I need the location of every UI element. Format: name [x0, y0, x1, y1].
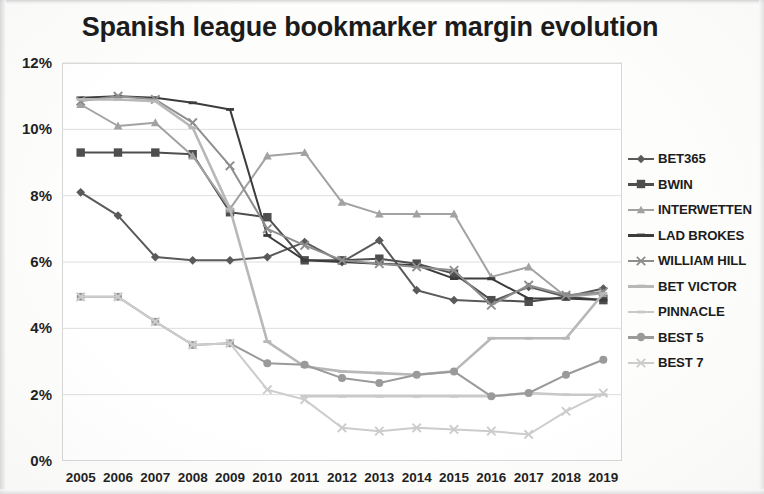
legend-marker-none-icon — [628, 226, 654, 244]
series-interwetten — [76, 100, 607, 300]
series-layer — [76, 92, 607, 439]
legend-label: BET VICTOR — [658, 279, 737, 294]
x-axis-tick-2005: 2005 — [61, 470, 101, 485]
legend-item-best-5[interactable]: BEST 5 — [628, 325, 762, 351]
legend-item-bet-victor[interactable]: BET VICTOR — [628, 274, 762, 300]
legend-marker-none-icon — [628, 277, 654, 295]
legend-marker-circle-icon — [628, 328, 654, 346]
legend-label: BWIN — [658, 177, 693, 192]
legend-item-best-7[interactable]: BEST 7 — [628, 350, 762, 376]
y-axis-tick-2: 2% — [8, 386, 52, 403]
legend-label: INTERWETTEN — [658, 202, 752, 217]
y-axis-tick-4: 4% — [8, 319, 52, 336]
legend-marker-cross-icon — [628, 252, 654, 270]
x-axis-tick-2010: 2010 — [247, 470, 287, 485]
chart-legend: BET365BWININTERWETTENLAD BROKESWILLIAM H… — [628, 146, 762, 376]
x-axis-tick-2014: 2014 — [397, 470, 437, 485]
legend-marker-cross-icon — [628, 354, 654, 372]
series-best-7 — [76, 293, 607, 439]
legend-label: BET365 — [658, 151, 706, 166]
y-axis-tick-12: 12% — [8, 54, 52, 71]
legend-item-bet365[interactable]: BET365 — [628, 146, 762, 172]
legend-item-william-hill[interactable]: WILLIAM HILL — [628, 248, 762, 274]
x-axis-tick-2018: 2018 — [546, 470, 586, 485]
legend-marker-none-icon — [628, 303, 654, 321]
legend-label: BEST 5 — [658, 330, 704, 345]
legend-label: PINNACLE — [658, 304, 725, 319]
legend-item-interwetten[interactable]: INTERWETTEN — [628, 197, 762, 223]
x-axis-tick-2019: 2019 — [583, 470, 623, 485]
x-axis-tick-2007: 2007 — [135, 470, 175, 485]
x-axis-tick-2017: 2017 — [509, 470, 549, 485]
legend-marker-diamond-icon — [628, 150, 654, 168]
y-axis-tick-8: 8% — [8, 187, 52, 204]
legend-item-lad-brokes[interactable]: LAD BROKES — [628, 223, 762, 249]
x-axis-tick-2009: 2009 — [210, 470, 250, 485]
y-axis-tick-0: 0% — [8, 452, 52, 469]
series-bet-victor — [77, 98, 608, 376]
y-axis-tick-10: 10% — [8, 120, 52, 137]
legend-label: BEST 7 — [658, 355, 704, 370]
x-axis-tick-2008: 2008 — [173, 470, 213, 485]
scanned-page: Spanish league bookmarker margin evoluti… — [0, 0, 764, 494]
y-axis-tick-6: 6% — [8, 253, 52, 270]
x-axis-tick-2012: 2012 — [322, 470, 362, 485]
legend-item-bwin[interactable]: BWIN — [628, 172, 762, 198]
x-axis-tick-2016: 2016 — [471, 470, 511, 485]
legend-marker-triangle-icon — [628, 201, 654, 219]
x-axis-tick-2011: 2011 — [285, 470, 325, 485]
legend-label: LAD BROKES — [658, 228, 744, 243]
gridlines — [62, 63, 622, 395]
x-axis-tick-2015: 2015 — [434, 470, 474, 485]
legend-label: WILLIAM HILL — [658, 253, 746, 268]
legend-marker-square-icon — [628, 175, 654, 193]
x-axis-tick-2013: 2013 — [359, 470, 399, 485]
x-axis-tick-2006: 2006 — [98, 470, 138, 485]
series-bwin — [76, 148, 607, 306]
legend-item-pinnacle[interactable]: PINNACLE — [628, 299, 762, 325]
series-best-5 — [77, 293, 608, 401]
